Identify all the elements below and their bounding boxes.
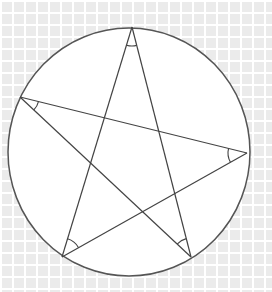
- pentagram-diagram: [0, 0, 272, 292]
- circumscribed-circle: [8, 28, 250, 276]
